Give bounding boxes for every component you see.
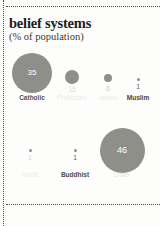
bubble-jewish[interactable]: [104, 74, 113, 83]
bubble-value: 1: [15, 154, 45, 162]
bubble-value: 1: [123, 83, 153, 91]
bubble-other[interactable]: 46: [100, 128, 145, 173]
chart-title: belief systems: [9, 15, 91, 32]
chart-subtitle: (% of population): [9, 31, 84, 42]
bubble-catholic[interactable]: 35: [12, 53, 52, 93]
infographic-panel: belief systems (% of population) 35Catho…: [0, 0, 160, 226]
category-label-buddhist: Buddhist: [52, 172, 98, 179]
category-label-muslim: Muslim: [115, 95, 160, 102]
bottom-dotted-rule: [6, 204, 160, 205]
bubble-value: 15: [57, 87, 87, 94]
top-dotted-rule: [6, 6, 160, 7]
bubble-hindu[interactable]: [29, 149, 32, 152]
bubble-protestant[interactable]: [65, 70, 80, 85]
bubble-value: 35: [28, 69, 37, 77]
bubble-value: 46: [117, 146, 127, 155]
category-label-other: Other: [99, 172, 145, 179]
bubble-buddhist[interactable]: [74, 149, 77, 152]
left-dotted-rule: [3, 0, 4, 226]
category-label-hindu: Hindu: [7, 172, 53, 179]
bubble-value: 6: [93, 85, 123, 93]
bubble-muslim[interactable]: [137, 78, 140, 81]
bubble-value: 1: [60, 154, 90, 162]
